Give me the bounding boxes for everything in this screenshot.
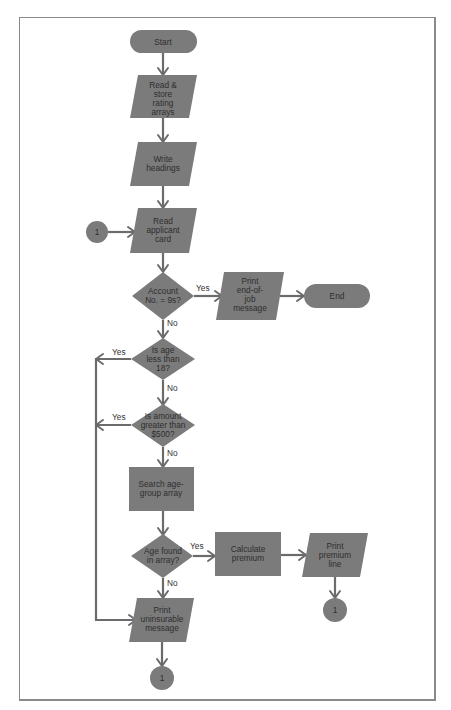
connector-1-out-right: 1 (323, 598, 347, 622)
print-end-of-job-io: Print end-of- job message (216, 272, 284, 320)
start-terminal: Start (130, 30, 197, 53)
write-headings-io: Write headings (130, 142, 197, 186)
age-found-decision: Age found in array? (131, 534, 193, 578)
svg-text:message: message (233, 303, 267, 313)
svg-text:card: card (155, 234, 172, 244)
connector-1-out-bottom: 1 (150, 666, 174, 690)
read-applicant-card-io: Read applicant card (130, 208, 197, 253)
svg-text:1: 1 (95, 227, 100, 237)
end-terminal: End (304, 284, 370, 308)
amount-decision: Is amount greater than $500? (131, 404, 195, 447)
print-premium-line-io: Print premium line (302, 533, 368, 577)
svg-text:arrays: arrays (151, 107, 174, 117)
svg-text:Start: Start (154, 37, 172, 47)
found-yes-label: Yes (190, 541, 204, 551)
age-decision: Is age less than 18? (131, 338, 195, 380)
svg-text:18?: 18? (156, 363, 170, 373)
account-no-label: No (167, 318, 178, 328)
svg-text:1: 1 (160, 673, 165, 683)
svg-text:premium: premium (232, 553, 264, 563)
found-no-label: No (167, 578, 178, 588)
flowchart: Start Read & store rating arrays Write h… (0, 0, 451, 710)
age-yes-label: Yes (112, 347, 126, 357)
svg-text:message: message (145, 623, 179, 633)
svg-text:group array: group array (140, 488, 183, 498)
account-decision: Account No. = 9s? (132, 272, 194, 320)
amount-no-label: No (167, 448, 178, 458)
account-yes-label: Yes (196, 283, 210, 293)
svg-text:End: End (330, 291, 345, 301)
amount-yes-label: Yes (112, 412, 126, 422)
svg-text:No. = 9s?: No. = 9s? (145, 295, 181, 305)
print-uninsurable-io: Print uninsurable message (129, 598, 194, 642)
read-store-arrays-io: Read & store rating arrays (130, 75, 197, 118)
svg-text:1: 1 (333, 605, 338, 615)
svg-text:headings: headings (146, 163, 180, 173)
svg-text:line: line (329, 559, 342, 569)
svg-text:in array?: in array? (147, 555, 180, 565)
search-array-process: Search age- group array (129, 467, 194, 511)
age-no-label: No (167, 383, 178, 393)
calculate-premium-process: Calculate premium (215, 532, 281, 576)
connector-1-in: 1 (86, 221, 108, 243)
svg-text:$500?: $500? (151, 429, 174, 439)
